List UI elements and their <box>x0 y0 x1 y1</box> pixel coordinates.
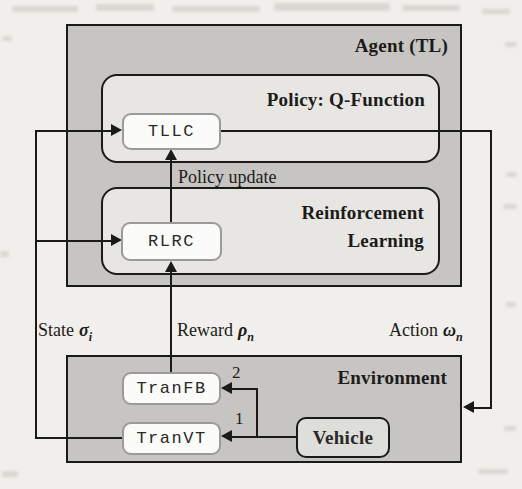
reward-arrowhead <box>165 261 177 272</box>
scan-artifact <box>0 251 9 257</box>
agent-title: Agent (TL) <box>355 35 448 57</box>
state-symbol: σ <box>79 320 89 340</box>
reward-subscript: n <box>247 330 254 344</box>
reward-line <box>170 272 172 373</box>
state-to-rlrc-line <box>35 240 112 242</box>
scan-artifact <box>12 6 78 12</box>
state-subscript: i <box>89 330 92 344</box>
environment-title: Environment <box>337 367 447 389</box>
tranfb-arrowhead <box>221 382 232 394</box>
tranfb-label: TranFB <box>136 379 206 398</box>
scan-artifact <box>506 172 517 177</box>
scan-artifact <box>402 5 460 11</box>
scan-artifact <box>96 4 154 11</box>
action-subscript: n <box>456 330 463 344</box>
action-arrowhead <box>463 401 474 413</box>
marker-1: 1 <box>235 409 244 429</box>
rlrc-node: RLRC <box>121 222 222 261</box>
scan-artifact <box>2 36 12 41</box>
action-symbol: ω <box>443 320 456 340</box>
tranvt-label: TranVT <box>136 429 206 448</box>
policy-update-label: Policy update <box>178 167 276 188</box>
tranvt-arrowhead <box>221 430 232 442</box>
action-line-vertical <box>490 130 492 409</box>
vehicle-branch-line <box>256 388 258 438</box>
reward-label: Rewardρn <box>177 320 254 345</box>
reward-label-text: Reward <box>177 320 233 340</box>
scan-artifact <box>505 42 517 47</box>
action-to-environment-line <box>473 407 492 409</box>
vehicle-node: Vehicle <box>296 417 390 458</box>
tranvt-output-line <box>35 437 124 439</box>
scan-artifact <box>506 302 516 307</box>
scan-artifact <box>503 204 517 209</box>
policy-update-arrowhead <box>165 149 177 160</box>
scan-artifact <box>172 6 260 12</box>
rl-title-line1: Reinforcement <box>301 199 424 227</box>
marker-2: 2 <box>232 363 241 383</box>
vehicle-to-tranvt-line <box>231 436 296 438</box>
scan-artifact <box>482 9 510 14</box>
policy-update-line <box>170 160 172 222</box>
action-label-text: Action <box>389 320 438 340</box>
tllc-node: TLLC <box>122 113 221 150</box>
rlrc-label: RLRC <box>148 232 195 251</box>
reward-symbol: ρ <box>238 320 247 340</box>
rl-title-line2: Learning <box>301 227 424 255</box>
state-label-text: State <box>38 320 74 340</box>
action-label: Actionωn <box>389 320 463 345</box>
state-to-tllc-arrowhead <box>111 124 122 136</box>
tranvt-node: TranVT <box>122 422 221 455</box>
rl-title: Reinforcement Learning <box>301 199 424 255</box>
tllc-action-line <box>221 130 492 132</box>
vehicle-label: Vehicle <box>313 427 374 449</box>
tllc-label: TLLC <box>148 122 195 141</box>
figure-rl-architecture-diagram: Agent (TL) Policy: Q-Function Reinforcem… <box>0 0 522 489</box>
scan-artifact <box>2 471 18 477</box>
scan-artifact <box>274 3 390 11</box>
scan-artifact <box>478 469 508 474</box>
state-feedback-line <box>35 130 37 439</box>
vehicle-to-tranfb-line <box>231 388 258 390</box>
tranfb-node: TranFB <box>122 372 221 405</box>
state-label: Stateσi <box>38 320 92 345</box>
scan-artifact <box>504 426 516 431</box>
state-to-tllc-line <box>35 130 112 132</box>
policy-title: Policy: Q-Function <box>267 89 425 111</box>
